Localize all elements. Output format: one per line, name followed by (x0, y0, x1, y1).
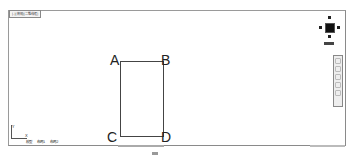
viewcube-south[interactable] (328, 35, 331, 38)
wcs-menu[interactable] (324, 42, 334, 45)
viewport-controls[interactable]: [-][俯视][二维线框] (9, 10, 41, 18)
viewcube[interactable] (318, 14, 342, 46)
navigation-bar[interactable] (333, 55, 343, 107)
showmotion-icon[interactable] (335, 90, 341, 96)
ucs-y-label: Y (12, 124, 14, 129)
horizontal-scrollbar-track[interactable] (310, 145, 345, 147)
figure-caption-mark (152, 152, 158, 155)
tab-layout1[interactable]: 布局1 (36, 140, 46, 145)
ucs-x-label: X (25, 133, 28, 138)
point-label-c: C (107, 130, 117, 144)
zoom-icon[interactable] (335, 74, 341, 80)
horizontal-scrollbar-thumb[interactable] (118, 145, 164, 147)
ucs-icon: Y X (10, 125, 30, 139)
point-label-b: B (161, 53, 170, 67)
ucs-x-axis (11, 138, 27, 139)
point-label-d: D (161, 130, 171, 144)
viewcube-west[interactable] (319, 26, 322, 29)
viewcube-top-face[interactable] (325, 23, 335, 33)
drawing-canvas[interactable] (8, 10, 346, 146)
pan-icon[interactable] (335, 66, 341, 72)
viewcube-east[interactable] (337, 26, 340, 29)
tab-model[interactable]: 模型 (25, 140, 33, 145)
point-label-a: A (110, 53, 119, 67)
navigation-wheel-icon[interactable] (335, 58, 341, 64)
viewcube-north[interactable] (328, 16, 331, 19)
tab-layout2[interactable]: 布局2 (49, 140, 59, 145)
orbit-icon[interactable] (335, 82, 341, 88)
rectangle-abdc[interactable] (120, 61, 164, 137)
layout-tabs: 模型 布局1 布局2 (25, 140, 59, 145)
